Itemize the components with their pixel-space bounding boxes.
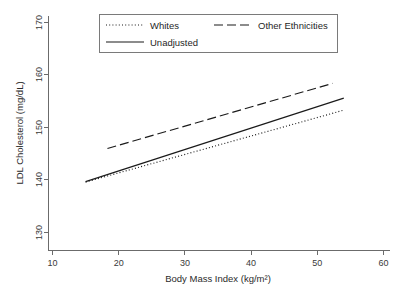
chart-legend: Whites Other Ethnicities Unadjusted	[100, 15, 338, 53]
x-tick-label-20: 20	[114, 258, 124, 268]
y-axis-ticks	[44, 23, 49, 233]
y-tick-label-160: 160	[34, 67, 44, 82]
y-tick-label-140: 140	[34, 172, 44, 187]
y-tick-label-130: 130	[34, 225, 44, 240]
legend-label-whites: Whites	[150, 20, 179, 31]
series-line-other-ethnicities	[107, 83, 332, 148]
y-tick-label-170: 170	[34, 15, 44, 30]
x-tick-label-10: 10	[47, 258, 57, 268]
x-axis-title: Body Mass Index (kg/m²)	[165, 273, 271, 284]
y-axis-title: LDL Cholesterol (mg/dL)	[14, 81, 25, 184]
x-tick-label-30: 30	[180, 258, 190, 268]
chart-canvas: 170 160 150 140 130 LDL Cholesterol (mg/…	[0, 0, 408, 293]
series-group	[86, 83, 344, 182]
x-tick-label-60: 60	[378, 258, 388, 268]
x-axis-tick-labels: 10 20 30 40 50 60	[47, 258, 388, 268]
x-tick-label-50: 50	[312, 258, 322, 268]
x-axis-ticks	[53, 251, 384, 256]
series-line-unadjusted	[86, 98, 344, 181]
y-tick-label-150: 150	[34, 120, 44, 135]
series-line-whites	[86, 110, 344, 182]
legend-label-unadjusted: Unadjusted	[150, 37, 198, 48]
legend-label-other-ethnicities: Other Ethnicities	[258, 20, 328, 31]
y-axis-tick-labels: 170 160 150 140 130	[34, 15, 44, 240]
x-tick-label-40: 40	[246, 258, 256, 268]
chart-figure: 170 160 150 140 130 LDL Cholesterol (mg/…	[0, 0, 408, 293]
